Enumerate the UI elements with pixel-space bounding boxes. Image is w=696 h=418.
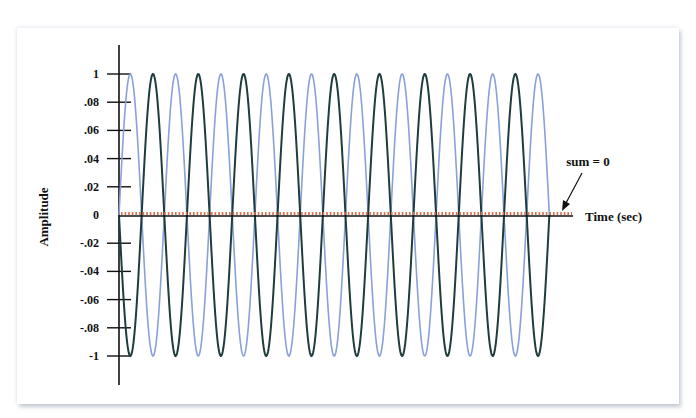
y-tick-label: .08 (84, 95, 99, 109)
y-tick-label: -.08 (80, 321, 99, 335)
y-tick-label: 1 (93, 67, 99, 81)
y-axis-label: Amplitude (36, 187, 51, 246)
annotation-arrow (566, 173, 582, 203)
y-tick-label: -.06 (80, 293, 99, 307)
y-tick-label: -.02 (80, 236, 99, 250)
y-tick-labels: 1.08.06.04.020-.02-.04-.06-.08-1 (80, 67, 99, 363)
x-axis-label: Time (sec) (585, 209, 642, 224)
chart: 1.08.06.04.020-.02-.04-.06-.08-1 sum = 0… (0, 0, 696, 418)
y-tick-label: -1 (89, 349, 99, 363)
y-tick-label: .04 (84, 152, 99, 166)
y-tick-label: .06 (84, 123, 99, 137)
y-tick-label: -.04 (80, 264, 99, 278)
annotation-label: sum = 0 (566, 154, 610, 169)
arrowhead-icon (562, 200, 570, 211)
y-tick-label: .02 (84, 180, 99, 194)
y-tick-label: 0 (93, 208, 99, 222)
